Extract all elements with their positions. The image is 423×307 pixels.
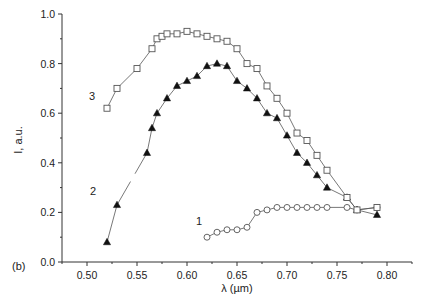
data-point-square xyxy=(284,110,290,116)
data-point-circle xyxy=(324,204,330,210)
data-point-circle xyxy=(204,234,210,240)
series-line-partial xyxy=(117,182,131,205)
y-tick-label: 0.2 xyxy=(40,206,55,218)
data-point-circle xyxy=(284,204,290,210)
y-tick-label: 0.0 xyxy=(40,256,55,268)
data-point-square xyxy=(254,66,260,72)
data-point-square xyxy=(149,46,155,52)
series-1: 1 xyxy=(196,204,380,240)
data-point-square xyxy=(344,195,350,201)
data-point-square xyxy=(374,204,380,210)
data-point-square xyxy=(174,31,180,37)
x-tick-label: 0.80 xyxy=(377,269,398,281)
x-tick-label: 0.50 xyxy=(77,269,98,281)
panel-label: (b) xyxy=(12,260,25,272)
data-point-square xyxy=(244,61,250,67)
data-point-circle xyxy=(214,229,220,235)
data-point-triangle xyxy=(153,109,160,115)
data-point-square xyxy=(204,33,210,39)
data-point-square xyxy=(194,31,200,37)
data-point-circle xyxy=(274,204,280,210)
data-point-triangle xyxy=(213,60,220,66)
data-point-triangle xyxy=(148,124,155,130)
data-point-triangle xyxy=(243,85,250,91)
data-point-square xyxy=(114,85,120,91)
series-layer: 123 xyxy=(89,28,381,244)
y-tick-label: 0.8 xyxy=(40,58,55,70)
data-point-square xyxy=(134,66,140,72)
data-point-square xyxy=(224,38,230,44)
data-point-triangle xyxy=(183,77,190,83)
data-point-circle xyxy=(314,204,320,210)
data-point-triangle xyxy=(113,201,120,207)
data-point-square xyxy=(164,31,170,37)
data-point-circle xyxy=(224,227,230,233)
data-point-triangle xyxy=(293,149,300,155)
x-tick-label: 0.55 xyxy=(127,269,148,281)
data-point-square xyxy=(214,36,220,42)
series-3: 3 xyxy=(89,28,380,213)
data-point-circle xyxy=(234,227,240,233)
data-point-triangle xyxy=(143,149,150,155)
x-axis-label: λ (µm) xyxy=(221,282,252,294)
data-point-square xyxy=(304,137,310,143)
x-tick-label: 0.60 xyxy=(177,269,198,281)
data-point-circle xyxy=(294,204,300,210)
curve-label-2: 2 xyxy=(90,185,96,197)
data-point-triangle xyxy=(263,109,270,115)
data-point-square xyxy=(234,46,240,52)
data-point-square xyxy=(294,130,300,136)
data-point-circle xyxy=(264,207,270,213)
axes: 0.500.550.600.650.700.750.800.00.20.40.6… xyxy=(40,8,412,281)
y-tick-label: 0.6 xyxy=(40,107,55,119)
chart-svg: 0.500.550.600.650.700.750.800.00.20.40.6… xyxy=(0,0,423,307)
series-2: 2 xyxy=(90,60,381,245)
data-point-square xyxy=(324,167,330,173)
data-point-circle xyxy=(244,224,250,230)
x-tick-label: 0.65 xyxy=(227,269,248,281)
data-point-square xyxy=(184,28,190,34)
data-point-circle xyxy=(254,209,260,215)
data-point-triangle xyxy=(233,77,240,83)
data-point-circle xyxy=(344,204,350,210)
chart-container: 0.500.550.600.650.700.750.800.00.20.40.6… xyxy=(0,0,423,307)
data-point-square xyxy=(274,95,280,101)
data-point-triangle xyxy=(173,82,180,88)
data-point-circle xyxy=(304,204,310,210)
series-line xyxy=(107,31,377,210)
data-point-square xyxy=(354,207,360,213)
data-point-triangle xyxy=(273,114,280,120)
data-point-square xyxy=(104,105,110,111)
data-point-square xyxy=(264,83,270,89)
data-point-triangle xyxy=(103,238,110,244)
y-tick-label: 0.4 xyxy=(40,157,55,169)
data-point-triangle xyxy=(283,132,290,138)
x-tick-label: 0.75 xyxy=(327,269,348,281)
curve-label-3: 3 xyxy=(89,90,95,102)
series-line xyxy=(107,205,117,242)
data-point-square xyxy=(314,152,320,158)
y-tick-label: 1.0 xyxy=(40,8,55,20)
series-line xyxy=(207,207,377,237)
curve-label-1: 1 xyxy=(196,215,202,227)
series-line xyxy=(147,64,377,215)
series-line-partial xyxy=(135,153,147,174)
x-tick-label: 0.70 xyxy=(277,269,298,281)
y-axis-label: I, a.u. xyxy=(12,126,24,154)
